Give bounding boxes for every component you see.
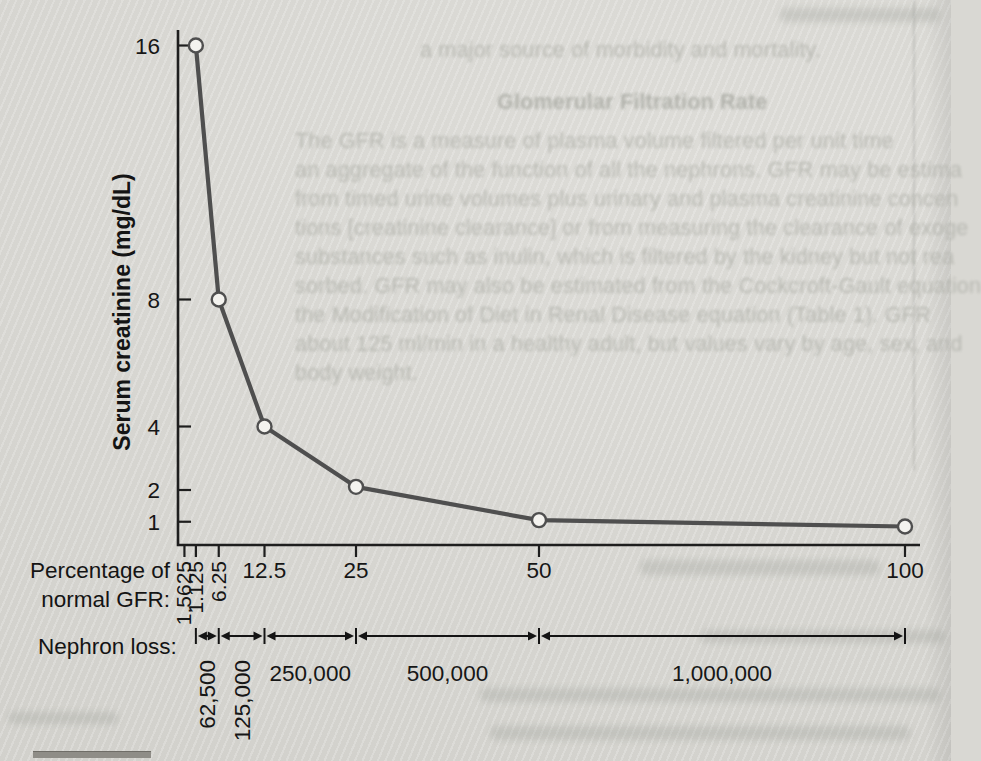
y-tick-label: 16 bbox=[135, 34, 160, 59]
x-tick-label: 12.5 bbox=[243, 558, 287, 583]
x-tick-label: 25 bbox=[343, 558, 368, 583]
x-axis-title-line2: normal GFR: bbox=[18, 585, 170, 614]
nephron-loss-value: 62,500 bbox=[195, 660, 220, 729]
x-axis-title: Percentage of normal GFR: bbox=[18, 556, 170, 614]
data-point-marker bbox=[898, 520, 912, 534]
y-tick-label: 1 bbox=[147, 510, 160, 535]
x-axis-title-line1: Percentage of bbox=[18, 556, 170, 585]
data-point-marker bbox=[212, 293, 226, 307]
arrowhead-right-icon bbox=[528, 632, 537, 641]
nephron-loss-value: 125,000 bbox=[230, 660, 255, 741]
data-point-marker bbox=[349, 480, 363, 494]
x-tick-label: 50 bbox=[526, 558, 551, 583]
nephron-loss-value: 500,000 bbox=[407, 661, 488, 686]
x-tick-label: 1.125 bbox=[184, 561, 207, 614]
data-point-marker bbox=[189, 39, 203, 53]
nephron-loss-value: 1,000,000 bbox=[672, 661, 772, 686]
data-point-marker bbox=[532, 513, 546, 527]
arrowhead-right-icon bbox=[208, 632, 217, 641]
y-tick-label: 2 bbox=[147, 478, 160, 503]
x-tick-label: 100 bbox=[886, 558, 924, 583]
creatinine-curve bbox=[196, 46, 905, 527]
y-tick-label: 4 bbox=[147, 415, 160, 440]
x-tick-label: 6.25 bbox=[207, 561, 230, 602]
arrowhead-left-icon bbox=[198, 632, 207, 641]
arrowhead-right-icon bbox=[894, 632, 903, 641]
arrowhead-left-icon bbox=[267, 632, 276, 641]
y-axis-title: Serum creatinine (mg/dL) bbox=[109, 173, 136, 450]
axis-lines bbox=[178, 30, 920, 545]
cropped-figure-rule bbox=[33, 751, 151, 758]
arrowhead-left-icon bbox=[221, 632, 230, 641]
arrowhead-right-icon bbox=[345, 632, 354, 641]
arrowhead-left-icon bbox=[358, 632, 367, 641]
data-point-marker bbox=[258, 420, 272, 434]
nephron-loss-label: Nephron loss: bbox=[38, 634, 177, 660]
arrowhead-right-icon bbox=[254, 632, 263, 641]
y-tick-label: 8 bbox=[147, 288, 160, 313]
arrowhead-left-icon bbox=[541, 632, 550, 641]
nephron-loss-value: 250,000 bbox=[270, 661, 351, 686]
